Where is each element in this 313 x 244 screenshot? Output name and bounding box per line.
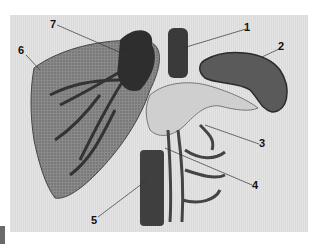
callout-label-4: 4 — [252, 180, 258, 191]
callout-label-3: 3 — [259, 138, 265, 149]
callout-label-7: 7 — [50, 19, 56, 30]
vena-cava-upper — [168, 28, 188, 78]
callout-label-2: 2 — [278, 41, 284, 52]
vena-cava-lower — [140, 150, 164, 226]
callout-label-6: 6 — [18, 45, 24, 56]
anatomy-illustration — [0, 0, 313, 244]
callout-label-1: 1 — [244, 22, 250, 33]
mesenteric-vessels — [168, 125, 225, 222]
callout-label-5: 5 — [91, 215, 97, 226]
